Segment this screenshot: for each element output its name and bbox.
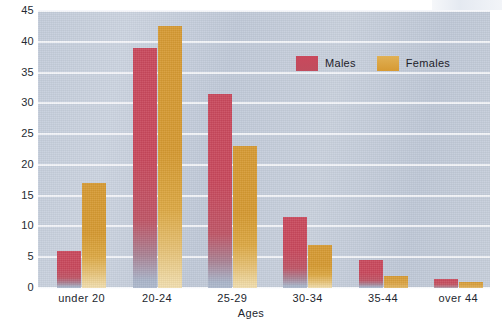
chart-legend: MalesFemales xyxy=(296,52,464,74)
y-tick-label: 20 xyxy=(0,158,34,170)
legend-label-females: Females xyxy=(406,57,450,69)
x-tick-label: over 44 xyxy=(413,292,502,304)
gridline-30 xyxy=(38,102,490,104)
bar-females-30-34 xyxy=(308,245,332,288)
y-tick-label: 45 xyxy=(0,4,34,16)
bar-males-25-29 xyxy=(208,94,232,288)
legend-swatch-females xyxy=(377,56,399,71)
y-tick-label: 15 xyxy=(0,189,34,201)
legend-label-males: Males xyxy=(325,57,356,69)
gridline-20 xyxy=(38,164,490,166)
y-tick-label: 25 xyxy=(0,127,34,139)
bar-males-20-24 xyxy=(133,48,157,288)
gridline-45 xyxy=(38,10,490,12)
bar-chart-figure: Percentages 051015202530354045 under 202… xyxy=(0,0,502,327)
bar-males-30-34 xyxy=(283,217,307,288)
y-tick-label: 5 xyxy=(0,250,34,262)
bar-females-25-29 xyxy=(233,146,257,288)
gridline-40 xyxy=(38,41,490,43)
bar-females-35-44 xyxy=(384,276,408,288)
gridline-25 xyxy=(38,133,490,135)
bar-males-under-20 xyxy=(57,251,81,288)
y-tick-label: 0 xyxy=(0,281,34,293)
legend-swatch-males xyxy=(296,56,318,71)
y-tick-label: 10 xyxy=(0,219,34,231)
y-tick-label: 30 xyxy=(0,96,34,108)
y-tick-label: 35 xyxy=(0,66,34,78)
y-tick-label: 40 xyxy=(0,35,34,47)
x-axis-title: Ages xyxy=(0,307,502,319)
bar-males-35-44 xyxy=(359,260,383,288)
bar-females-under-20 xyxy=(82,183,106,288)
bar-females-20-24 xyxy=(158,26,182,288)
bar-females-over-44 xyxy=(459,282,483,288)
bar-males-over-44 xyxy=(434,279,458,288)
